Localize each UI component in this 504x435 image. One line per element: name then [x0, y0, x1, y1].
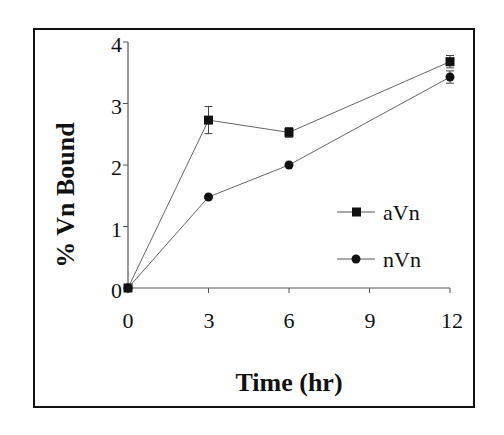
- legend-label-nvn: nVn: [383, 247, 421, 273]
- x-tick-label: 0: [108, 308, 148, 334]
- x-tick-label: 12: [432, 308, 472, 334]
- y-tick-label: 3: [92, 94, 122, 120]
- data-point-square-marker: [446, 57, 455, 66]
- y-tick-label: 1: [92, 217, 122, 243]
- legend-square-marker: [352, 208, 361, 217]
- data-point-circle-marker: [446, 73, 455, 82]
- y-tick-label: 2: [92, 155, 122, 181]
- data-point-square-marker: [204, 116, 213, 125]
- x-tick-label: 3: [189, 308, 229, 334]
- data-point-circle-marker: [204, 192, 213, 201]
- data-point-circle-marker: [124, 284, 133, 293]
- y-axis-label: % Vn Bound: [51, 95, 81, 295]
- y-tick-label: 0: [92, 278, 122, 304]
- x-tick-label: 9: [350, 308, 390, 334]
- legend-circle-marker: [352, 255, 361, 264]
- x-tick-label: 6: [269, 308, 309, 334]
- data-point-square-marker: [285, 128, 294, 137]
- y-tick-label: 4: [92, 32, 122, 58]
- x-axis-label: Time (hr): [128, 368, 450, 398]
- legend-label-avn: aVn: [383, 200, 420, 226]
- data-point-circle-marker: [285, 161, 294, 170]
